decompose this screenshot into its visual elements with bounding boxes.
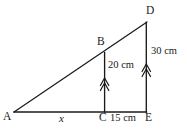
vertex-label-c: C (99, 112, 107, 124)
vertex-label-d: D (146, 5, 154, 17)
vertex-label-e: E (145, 112, 152, 124)
measure-label-ce: 15 cm (110, 113, 136, 124)
vertex-label-b: B (97, 36, 105, 48)
measure-label-bc: 20 cm (108, 60, 134, 71)
measure-label-de: 30 cm (151, 46, 177, 57)
measure-label-ac: x (59, 113, 64, 124)
vertex-label-a: A (3, 111, 11, 123)
figure-canvas (0, 0, 187, 130)
geometry-figure: D B A C E x 20 cm 15 cm 30 cm (0, 0, 187, 130)
